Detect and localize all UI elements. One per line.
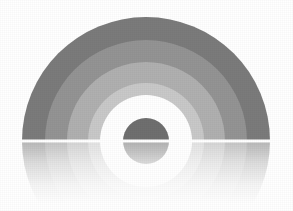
concentric-arc-graphic: [0, 0, 293, 211]
horizon-line: [0, 140, 293, 143]
graphic-canvas: [0, 0, 293, 211]
